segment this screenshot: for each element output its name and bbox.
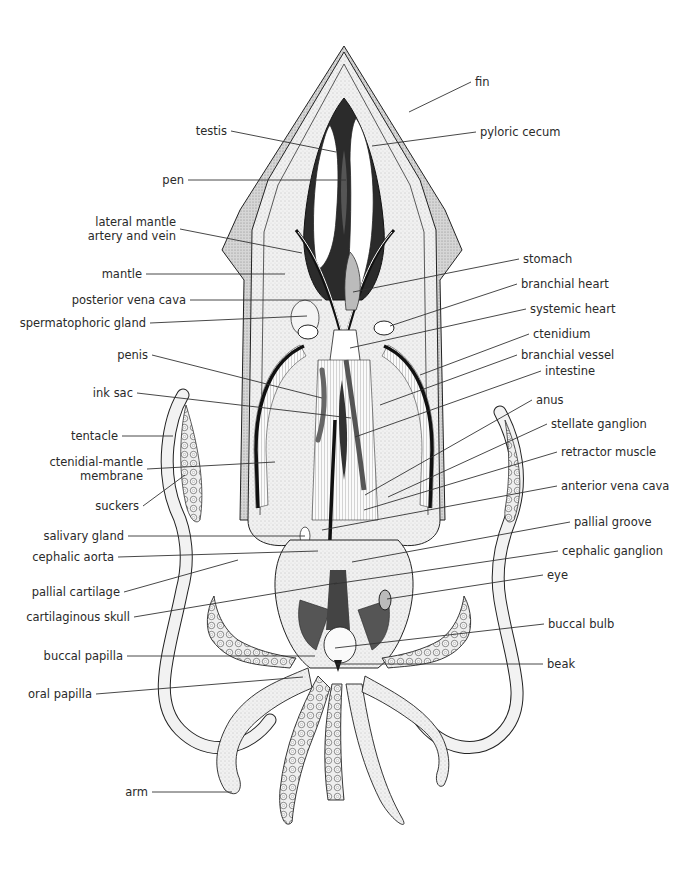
label-ink-sac: ink sac	[93, 386, 133, 400]
cephalic-ganglion	[326, 570, 350, 630]
label-cephalic-ganglion: cephalic ganglion	[562, 544, 663, 558]
label-penis: penis	[117, 348, 148, 362]
label-pallial-cartilage: pallial cartilage	[32, 585, 120, 599]
label-cartilaginous-skull: cartilaginous skull	[26, 610, 130, 624]
label-cephalic-aorta: cephalic aorta	[32, 550, 114, 564]
label-stellate-ganglion: stellate ganglion	[551, 417, 647, 431]
label-salivary-gland: salivary gland	[43, 529, 124, 543]
label-tentacle: tentacle	[71, 429, 118, 443]
label-buccal-bulb: buccal bulb	[548, 617, 614, 631]
label-pen: pen	[162, 173, 184, 187]
label-ctenidial-mantle-membrane: ctenidial-mantle membrane	[49, 455, 143, 483]
label-pyloric-cecum: pyloric cecum	[480, 125, 560, 139]
label-eye: eye	[547, 568, 568, 582]
label-posterior-vena-cava: posterior vena cava	[72, 293, 186, 307]
label-mantle: mantle	[102, 267, 142, 281]
label-lateral-mantle-artery-vein: lateral mantle artery and vein	[88, 215, 176, 243]
label-branchial-heart: branchial heart	[521, 277, 609, 291]
eye	[379, 590, 391, 610]
label-oral-papilla: oral papilla	[28, 687, 92, 701]
label-spermatophoric-gland: spermatophoric gland	[20, 316, 146, 330]
buccal-bulb	[324, 627, 356, 663]
label-ctenidium: ctenidium	[533, 327, 590, 341]
label-suckers: suckers	[95, 499, 139, 513]
label-line-2: artery and vein	[88, 229, 176, 243]
label-anterior-vena-cava: anterior vena cava	[561, 479, 669, 493]
label-anus: anus	[536, 393, 564, 407]
label-arm: arm	[125, 785, 148, 799]
label-testis: testis	[196, 124, 227, 138]
label-systemic-heart: systemic heart	[530, 302, 615, 316]
label-pallial-groove: pallial groove	[574, 515, 652, 529]
label-retractor-muscle: retractor muscle	[561, 445, 656, 459]
label-stomach: stomach	[523, 252, 572, 266]
branchial-heart-right	[374, 321, 394, 335]
label-intestine: intestine	[545, 364, 595, 378]
label-line-1: lateral mantle	[88, 215, 176, 229]
label-branchial-vessel: branchial vessel	[521, 348, 614, 362]
label-line-2: membrane	[49, 469, 143, 483]
branchial-heart-left	[298, 325, 318, 339]
label-buccal-papilla: buccal papilla	[44, 649, 123, 663]
label-line-1: ctenidial-mantle	[49, 455, 143, 469]
label-beak: beak	[547, 657, 575, 671]
label-fin: fin	[475, 75, 490, 89]
